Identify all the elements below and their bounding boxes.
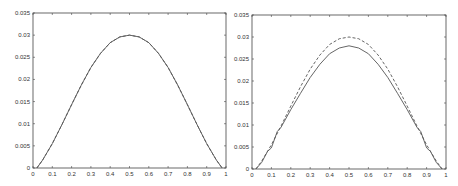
y-tick-label: 0.02 [18,76,30,82]
x-tick-label: 0.2 [287,172,296,178]
series-dashed [256,37,442,169]
x-tick-label: 0.6 [145,171,154,177]
y-tick-label: 0.03 [18,32,30,38]
x-tick-label: 0.4 [325,172,334,178]
x-tick-label: 0.9 [422,172,431,178]
x-tick-label: 0.3 [306,172,315,178]
x-tick-label: 0.7 [384,172,393,178]
series-dashed [37,35,222,168]
y-tick-label: 0.035 [15,10,31,16]
x-tick-label: 0 [250,172,254,178]
x-tick-label: 0 [31,171,35,177]
y-tick-label: 0.005 [15,143,31,149]
y-tick-label: 0.025 [234,56,250,62]
right-plot: 00.10.20.30.40.50.60.70.80.9100.0050.010… [234,12,448,178]
x-tick-label: 0.7 [164,171,173,177]
x-tick-label: 0.4 [106,171,115,177]
x-tick-label: 1 [224,171,228,177]
y-tick-label: 0.015 [15,99,31,105]
x-tick-label: 0.3 [87,171,96,177]
series-solid [256,46,442,169]
x-tick-label: 0.8 [183,171,192,177]
x-tick-label: 0.1 [267,172,276,178]
y-tick-label: 0.015 [234,100,250,106]
x-tick-label: 0.6 [364,172,373,178]
series-solid [37,35,222,168]
y-tick-label: 0 [27,165,31,171]
x-tick-label: 1 [444,172,448,178]
x-tick-label: 0.8 [403,172,412,178]
y-tick-label: 0.02 [237,78,249,84]
y-tick-label: 0.03 [237,34,249,40]
y-tick-label: 0.025 [15,54,31,60]
x-tick-label: 0.5 [125,171,134,177]
x-tick-label: 0.5 [345,172,354,178]
plot-frame [252,15,446,169]
plot-frame [33,13,226,168]
y-tick-label: 0.005 [234,144,250,150]
y-tick-label: 0.01 [18,121,30,127]
x-tick-label: 0.9 [203,171,212,177]
figure: 00.10.20.30.40.50.60.70.80.9100.0050.010… [0,0,458,186]
y-tick-label: 0.01 [237,122,249,128]
left-plot: 00.10.20.30.40.50.60.70.80.9100.0050.010… [15,10,228,177]
y-tick-label: 0 [246,166,250,172]
y-tick-label: 0.035 [234,12,250,18]
x-tick-label: 0.1 [48,171,57,177]
x-tick-label: 0.2 [67,171,76,177]
